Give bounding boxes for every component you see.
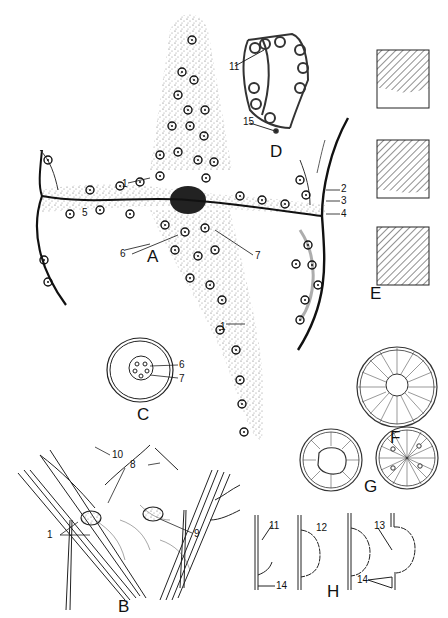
callout-5: 5: [82, 208, 88, 218]
figure-a-tissue: [37, 14, 348, 440]
figure-e-hatched-boxes: [377, 50, 429, 285]
callout-9: 9: [194, 529, 200, 539]
callout-11-h: 11: [269, 521, 279, 531]
figure-label-g: G: [364, 478, 377, 495]
callout-4: 4: [341, 209, 347, 219]
callout-3: 3: [341, 196, 347, 206]
callout-11-d: 11: [229, 62, 239, 72]
callout-6-a: 6: [120, 249, 126, 259]
callout-2: 2: [341, 184, 347, 194]
callout-1-b: 1: [47, 530, 53, 540]
callout-1-lower: 1: [220, 322, 226, 332]
callout-10: 10: [112, 450, 123, 460]
figure-label-h: H: [327, 583, 339, 600]
figure-label-b: B: [118, 598, 129, 615]
callout-1-upper: 1: [122, 179, 128, 189]
figure-b-fiber-bundles: [18, 445, 240, 610]
callout-6-c: 6: [179, 360, 185, 370]
callout-13: 13: [374, 521, 385, 531]
callout-15: 15: [243, 117, 254, 127]
figure-f-striated-disc: [357, 347, 437, 427]
figure-c-oval: [107, 338, 178, 402]
figure-label-f: F: [390, 429, 400, 446]
callout-14-a: 14: [276, 581, 287, 591]
callout-14-b: 14: [357, 575, 368, 585]
figure-label-c: C: [137, 406, 149, 423]
callout-7-a: 7: [255, 251, 261, 261]
callout-8: 8: [130, 460, 136, 470]
figure-label-a: A: [147, 248, 158, 265]
figure-label-e: E: [370, 285, 381, 302]
figure-label-d: D: [270, 143, 282, 160]
callout-12: 12: [316, 523, 327, 533]
callout-7-c: 7: [179, 374, 185, 384]
